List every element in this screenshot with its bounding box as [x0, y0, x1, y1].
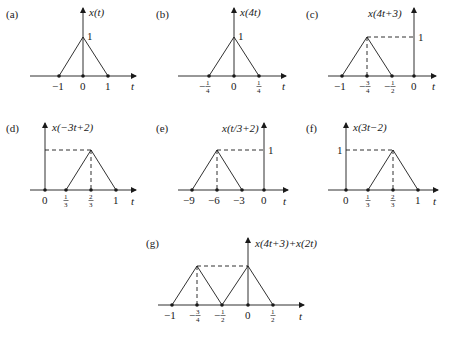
tick-label: −9: [183, 194, 195, 206]
svg-text:−: −: [199, 80, 205, 92]
panel-a: [30, 8, 136, 76]
tick-label: 0: [261, 194, 267, 206]
svg-text:3: 3: [64, 201, 68, 209]
panel-tag-a: (a): [6, 8, 19, 21]
svg-text:−: −: [384, 80, 390, 92]
t-axis-label: t: [432, 80, 436, 92]
svg-text:3: 3: [89, 201, 93, 209]
tick-label: 0: [42, 194, 48, 206]
tick-dots: [43, 74, 420, 307]
peak-label-a: 1: [87, 30, 93, 42]
svg-text:3: 3: [366, 201, 370, 209]
tick-label: −1: [334, 80, 346, 92]
t-axis-label: t: [433, 195, 437, 207]
peak-label-f: 1: [337, 144, 343, 156]
tick-label-half: 12: [271, 308, 276, 324]
svg-text:1: 1: [221, 308, 225, 316]
t-axis-label: t: [282, 80, 286, 92]
svg-text:−: −: [359, 80, 365, 92]
svg-text:1: 1: [257, 79, 261, 87]
svg-text:−: −: [189, 309, 195, 321]
panel-tag-c: (c): [306, 8, 319, 21]
svg-text:2: 2: [221, 316, 225, 324]
ylabel-g: x(4t+3)+x(2t): [254, 237, 317, 250]
tick-label: −3: [233, 194, 245, 206]
tick-label: 1: [105, 80, 111, 92]
panel-d: [30, 123, 136, 190]
svg-text:4: 4: [206, 87, 210, 95]
svg-text:4: 4: [366, 87, 370, 95]
panel-tag-g: (g): [146, 237, 159, 250]
svg-text:1: 1: [366, 193, 370, 201]
svg-text:3: 3: [196, 308, 200, 316]
tick-label: −6: [208, 194, 220, 206]
svg-text:4: 4: [196, 316, 200, 324]
svg-text:2: 2: [391, 87, 395, 95]
tick-label: 0: [245, 309, 251, 321]
tick-label: 1: [113, 194, 119, 206]
t-axis-label: t: [131, 80, 135, 92]
svg-text:2: 2: [89, 193, 93, 201]
signal-transform-figure: (a) (b) (c) (d) (e) (f) (g) x(t) x(4t) x…: [0, 0, 449, 338]
ylabel-c: x(4t+3): [367, 7, 402, 20]
svg-text:3: 3: [391, 201, 395, 209]
panel-tag-b: (b): [156, 8, 169, 21]
peak-label-c: 1: [418, 31, 424, 43]
svg-text:3: 3: [366, 79, 370, 87]
svg-text:1: 1: [391, 79, 395, 87]
svg-text:1: 1: [64, 193, 68, 201]
ylabel-e: x(t/3+2): [221, 122, 259, 135]
svg-text:1: 1: [271, 308, 275, 316]
ylabel-d: x(−3t+2): [51, 121, 93, 134]
tick-label-two-thirds: 23: [89, 193, 94, 209]
peak-label-e: 1: [268, 144, 274, 156]
svg-text:2: 2: [271, 316, 275, 324]
tick-label: 0: [343, 194, 349, 206]
tick-label-neg-three-quarters: − 34: [189, 308, 201, 324]
svg-text:4: 4: [257, 87, 261, 95]
t-axis-label: t: [131, 195, 135, 207]
panel-tag-d: (d): [6, 122, 19, 135]
panel-tag-e: (e): [156, 122, 169, 135]
tick-label-neg-quarter: − 14: [199, 79, 211, 95]
svg-text:1: 1: [206, 79, 210, 87]
tick-label: 1: [415, 194, 421, 206]
tick-label-neg-half: − 12: [214, 308, 226, 324]
ylabel-f: x(3t−2): [352, 121, 387, 134]
tick-label-third: 13: [366, 193, 371, 209]
tick-label-quarter: 14: [257, 79, 262, 95]
svg-text:−: −: [214, 309, 220, 321]
peak-label-b: 1: [238, 30, 244, 42]
panel-b: [178, 8, 286, 76]
tick-label-third: 13: [64, 193, 69, 209]
ylabel-b: x(4t): [239, 6, 261, 19]
triangle-pulse: [59, 37, 108, 76]
svg-text:2: 2: [391, 193, 395, 201]
tick-label-neg-half: − 12: [384, 79, 396, 95]
panel-f: [328, 123, 438, 190]
tick-label: 0: [411, 80, 417, 92]
tick-label-two-thirds: 23: [391, 193, 396, 209]
t-axis-label: t: [283, 195, 287, 207]
t-axis-label: t: [299, 310, 303, 322]
tick-label: −1: [164, 309, 176, 321]
panel-tag-f: (f): [306, 122, 317, 135]
ylabel-a: x(t): [88, 6, 105, 19]
tick-label: 0: [231, 80, 237, 92]
tick-label: 0: [80, 80, 86, 92]
tick-label: −1: [52, 80, 64, 92]
tick-label-neg-three-quarters: − 34: [359, 79, 371, 95]
